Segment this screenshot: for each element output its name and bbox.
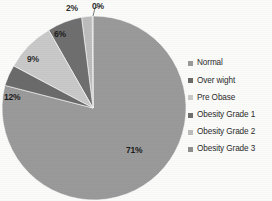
legend-swatch-icon <box>188 61 193 66</box>
legend-item-obesity-grade-2[interactable]: Obesity Grade 2 <box>188 124 272 141</box>
legend-item-obesity-grade-1[interactable]: Obesity Grade 1 <box>188 107 272 124</box>
legend-item-label: Obesity Grade 1 <box>197 111 255 119</box>
pie-label-over-wight: 12% <box>4 93 20 102</box>
legend-item-pre-obase[interactable]: Pre Obase <box>188 89 272 106</box>
pie-plot-area <box>0 0 186 201</box>
pie-svg <box>0 0 186 201</box>
legend-item-label: Over wight <box>197 77 235 85</box>
legend-item-over-wight[interactable]: Over wight <box>188 72 272 89</box>
legend-item-label: Normal <box>197 59 223 67</box>
pie-chart-figure: 2% 0% 6% 9% 12% 71% Normal Over wight Pr… <box>0 0 272 201</box>
legend-item-label: Obesity Grade 3 <box>197 145 255 153</box>
legend-swatch-icon <box>188 130 193 135</box>
pie-label-obesity-grade-1: 6% <box>54 30 66 39</box>
pie-label-normal: 71% <box>126 146 142 155</box>
pie-label-obesity-grade-2: 2% <box>66 4 78 13</box>
legend-item-normal[interactable]: Normal <box>188 55 272 72</box>
legend-swatch-icon <box>188 113 193 118</box>
legend-swatch-icon <box>188 95 193 100</box>
legend-swatch-icon <box>188 147 193 152</box>
legend-item-label: Obesity Grade 2 <box>197 128 255 136</box>
chart-legend: Normal Over wight Pre Obase Obesity Grad… <box>188 55 272 158</box>
pie-label-obesity-grade-3: 0% <box>92 2 104 11</box>
pie-slice-normal <box>2 16 186 200</box>
legend-item-label: Pre Obase <box>197 94 235 102</box>
pie-label-pre-obase: 9% <box>27 55 39 64</box>
legend-swatch-icon <box>188 78 193 83</box>
legend-item-obesity-grade-3[interactable]: Obesity Grade 3 <box>188 141 272 158</box>
